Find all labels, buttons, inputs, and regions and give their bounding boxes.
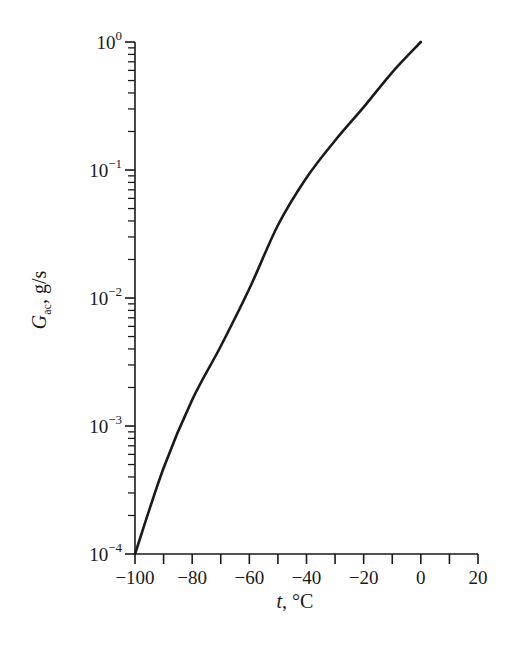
x-tick-label: −60 [234, 567, 264, 588]
y-axis-title: Gac, g/s [28, 271, 54, 330]
y-tick-label: 10−1 [89, 156, 122, 181]
x-tick-label: −20 [349, 567, 379, 588]
y-tick-label: 10−3 [89, 412, 122, 437]
chart: 10010−110−210−310−4 −100−80−60−40−20020 … [0, 0, 515, 647]
y-tick-label: 100 [97, 28, 123, 53]
x-tick-label: −100 [115, 567, 154, 588]
x-tick-label: −40 [292, 567, 322, 588]
x-axis-title: t, °C [277, 590, 314, 612]
x-axis: −100−80−60−40−20020 [115, 554, 487, 588]
y-axis: 10010−110−210−310−4 [89, 28, 135, 565]
y-tick-label: 10−4 [89, 540, 122, 565]
y-tick-label: 10−2 [89, 284, 122, 309]
x-tick-label: −80 [177, 567, 207, 588]
data-series [135, 42, 421, 554]
series-line [135, 42, 421, 554]
x-tick-label: 20 [469, 567, 488, 588]
x-tick-label: 0 [416, 567, 426, 588]
